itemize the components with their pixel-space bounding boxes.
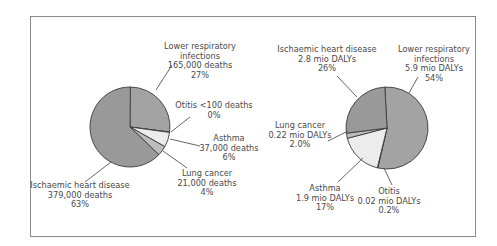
- leader-line-ischaemic-heart-disease: [337, 76, 357, 97]
- data-label-asthma: Asthma1.9 mio DALYs17%: [296, 183, 354, 212]
- pie-slice-lower-respiratory: [130, 87, 170, 132]
- dalys-pie: Lower respiratoryinfections5.9 mio DALYs…: [268, 44, 470, 215]
- leader-line-asthma: [338, 158, 363, 182]
- deaths-pie: Lower respiratoryinfections165,000 death…: [30, 41, 258, 209]
- leader-line-asthma: [170, 139, 200, 146]
- data-label-lower-respiratory: Lower respiratoryinfections165,000 death…: [164, 41, 236, 80]
- data-label-lung-cancer: Lung cancer21,000 deaths4%: [177, 168, 236, 197]
- data-label-lower-respiratory: Lower respiratoryinfections5.9 mio DALYs…: [398, 44, 470, 83]
- leader-line-lower-respiratory: [409, 77, 418, 93]
- pie-charts: Lower respiratoryinfections165,000 death…: [0, 0, 497, 246]
- data-label-ischaemic-heart-disease: Ischaemic heart disease2.8 mio DALYs26%: [277, 44, 376, 73]
- data-label-asthma: Asthma37,000 deaths6%: [199, 133, 258, 162]
- leader-line-lung-cancer: [163, 151, 187, 168]
- data-label-otitis: Otitis0.02 mio DALYs0.2%: [357, 186, 420, 215]
- data-label-lung-cancer: Lung cancer0.22 mio DALYs2.0%: [268, 120, 331, 149]
- leader-line-otitis: [384, 168, 392, 185]
- data-label-otitis: Otitis <100 deaths0%: [175, 100, 252, 120]
- leader-line-ischaemic-heart-disease: [85, 162, 111, 182]
- leader-line-otitis: [171, 117, 190, 132]
- pie-slice-ischaemic-heart-disease: [346, 87, 387, 133]
- data-label-ischaemic-heart-disease: Ischaemic heart disease379,000 deaths63%: [30, 180, 129, 209]
